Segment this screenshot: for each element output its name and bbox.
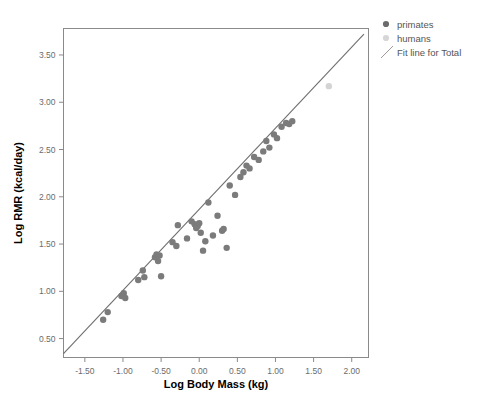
chart-root: -1.50-1.00-0.500.000.501.001.502.00 0.50…: [0, 0, 492, 408]
data-point: [210, 232, 216, 238]
x-axis-ticks: -1.50-1.00-0.500.000.501.001.502.00: [75, 358, 360, 376]
legend-item-primates[interactable]: primates: [383, 19, 434, 30]
data-point: [200, 247, 206, 253]
x-tick-label: 1.00: [267, 366, 284, 376]
x-tick-label: 0.50: [229, 366, 246, 376]
data-point: [184, 235, 190, 241]
data-point: [122, 295, 128, 301]
data-point: [135, 277, 141, 283]
y-tick-label: 1.00: [39, 286, 56, 296]
legend-item-fit-line[interactable]: Fit line for Total: [381, 46, 461, 58]
x-tick-label: -1.00: [113, 366, 133, 376]
chart-legend: primates humans Fit line for Total: [381, 19, 461, 59]
data-point: [274, 135, 280, 141]
data-point: [155, 258, 161, 264]
legend-line-icon: [381, 46, 393, 58]
data-point: [141, 274, 147, 280]
y-tick-label: 0.50: [39, 334, 56, 344]
data-point: [198, 230, 204, 236]
data-point: [214, 212, 220, 218]
legend-item-humans[interactable]: humans: [383, 33, 431, 44]
legend-marker-primates-icon: [383, 21, 389, 27]
y-axis-ticks: 0.501.001.502.002.503.003.50: [39, 50, 64, 344]
data-point: [105, 309, 111, 315]
legend-label-humans: humans: [397, 33, 431, 44]
data-point: [289, 118, 295, 124]
y-tick-label: 2.00: [39, 192, 56, 202]
x-axis-title: Log Body Mass (kg): [164, 378, 269, 390]
data-point: [173, 243, 179, 249]
data-point: [220, 226, 226, 232]
data-point: [202, 238, 208, 244]
data-point: [256, 157, 262, 163]
data-point: [227, 182, 233, 188]
x-tick-label: 2.00: [343, 366, 360, 376]
data-point: [246, 165, 252, 171]
x-tick-label: -0.50: [151, 366, 171, 376]
data-point: [175, 222, 181, 228]
data-point: [140, 267, 146, 273]
y-tick-label: 1.50: [39, 239, 56, 249]
data-point: [205, 199, 211, 205]
x-tick-label: 1.50: [305, 366, 322, 376]
data-point: [266, 144, 272, 150]
fit-line: [64, 34, 364, 354]
y-tick-label: 2.50: [39, 145, 56, 155]
data-point: [240, 169, 246, 175]
fit-line-segment: [64, 34, 364, 354]
x-tick-label: -1.50: [75, 366, 95, 376]
y-tick-label: 3.50: [39, 50, 56, 60]
x-tick-label: 0.00: [191, 366, 208, 376]
data-point: [196, 220, 202, 226]
data-point: [260, 148, 266, 154]
legend-label-fit-line: Fit line for Total: [397, 47, 461, 58]
data-point: [232, 192, 238, 198]
data-point: [156, 252, 162, 258]
data-point: [263, 138, 269, 144]
y-tick-label: 3.00: [39, 97, 56, 107]
legend-label-primates: primates: [397, 19, 434, 30]
data-point: [100, 316, 106, 322]
y-axis-title: Log RMR (kcal/day): [12, 142, 24, 244]
data-point: [158, 273, 164, 279]
scatter-plot: -1.50-1.00-0.500.000.501.001.502.00 0.50…: [0, 0, 492, 408]
data-point: [326, 83, 332, 89]
legend-marker-humans-icon: [383, 35, 389, 41]
series-primates-points: [100, 118, 295, 323]
data-point: [223, 245, 229, 251]
series-humans-points: [326, 83, 332, 89]
